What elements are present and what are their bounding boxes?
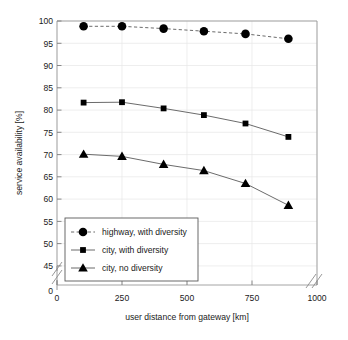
y-tick-label: 80 xyxy=(43,105,53,115)
x-tick-label: 500 xyxy=(180,293,195,303)
y-tick-label: 75 xyxy=(43,128,53,138)
y-axis-zero-label: 0 xyxy=(48,286,53,296)
y-tick-label: 70 xyxy=(43,150,53,160)
x-tick-label: 750 xyxy=(245,293,260,303)
legend-item-label: city, with diversity xyxy=(102,245,169,255)
y-tick-label: 45 xyxy=(43,261,53,271)
y-tick-label: 60 xyxy=(43,194,53,204)
legend-item-label: city, no diversity xyxy=(102,263,163,273)
legend: highway, with diversity city, with diver… xyxy=(65,218,198,281)
y-tick-label: 65 xyxy=(43,172,53,182)
square-marker-icon xyxy=(80,247,86,253)
y-tick-label: 100 xyxy=(39,16,54,26)
y-axis-label: service availability [%] xyxy=(14,111,24,195)
y-tick-label: 95 xyxy=(43,39,53,49)
circle-marker-icon xyxy=(79,228,88,237)
x-axis-label: user distance from gateway [km] xyxy=(125,312,249,322)
chart-canvas: 100 95 90 85 80 75 70 65 60 55 50 45 0 xyxy=(0,0,348,340)
chart-figure: 100 95 90 85 80 75 70 65 60 55 50 45 0 xyxy=(0,0,348,340)
y-tick-label: 50 xyxy=(43,239,53,249)
x-tick-label: 1000 xyxy=(307,293,326,303)
x-tick-label: 250 xyxy=(115,293,130,303)
legend-item-label: highway, with diversity xyxy=(102,227,188,237)
x-tick-label: 0 xyxy=(55,293,60,303)
y-tick-label: 90 xyxy=(43,61,53,71)
y-tick-label: 55 xyxy=(43,217,53,227)
y-tick-label: 85 xyxy=(43,83,53,93)
chart-svg: 100 95 90 85 80 75 70 65 60 55 50 45 0 xyxy=(0,0,348,340)
